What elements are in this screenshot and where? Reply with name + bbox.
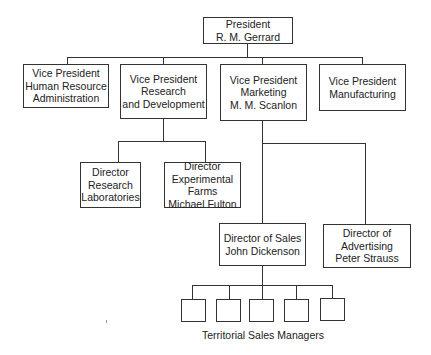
vp-manufacturing-line: Manufacturing — [329, 88, 396, 101]
vp-marketing-line: Vice President — [230, 74, 298, 87]
dir-research-line: Director — [92, 166, 129, 179]
vp-hr-line: Administration — [33, 92, 100, 105]
dir-experimental-farms-box: Director Experimental Farms Michael Fult… — [164, 162, 241, 208]
connector — [205, 141, 206, 162]
connector — [262, 266, 263, 286]
vp-marketing-line: M. M. Scanlon — [230, 99, 297, 112]
vp-rnd-box: Vice President Research and Development — [120, 64, 207, 119]
connector — [163, 119, 164, 142]
territorial-caption: Territorial Sales Managers — [182, 329, 344, 341]
dir-advertising-line: Director of — [343, 227, 391, 240]
connector — [262, 285, 263, 300]
connector — [262, 143, 366, 144]
vp-marketing-box: Vice President Marketing M. M. Scanlon — [220, 64, 307, 121]
dir-advertising-box: Director of Advertising Peter Strauss — [323, 224, 411, 268]
connector — [229, 285, 230, 300]
dir-farms-line: Michael Fulton — [168, 198, 236, 211]
vp-manufacturing-line: Vice President — [329, 75, 397, 88]
vp-manufacturing-box: Vice President Manufacturing — [319, 64, 406, 111]
dir-research-line: Research — [88, 179, 133, 192]
territorial-manager-box — [284, 299, 309, 322]
connector — [67, 57, 363, 58]
vp-hr-box: Vice President Human Resource Administra… — [23, 64, 109, 108]
territorial-manager-box — [320, 298, 345, 321]
vp-rnd-line: Vice President — [130, 73, 198, 86]
vp-hr-line: Human Resource — [25, 80, 107, 93]
dir-research-line: Laboratories — [81, 191, 139, 204]
dir-farms-line: Experimental — [172, 173, 233, 186]
dir-sales-line: Director of Sales — [224, 232, 302, 245]
connector — [365, 143, 366, 224]
dir-farms-line: Farms — [188, 185, 218, 198]
connector — [296, 285, 297, 300]
dir-advertising-line: Advertising — [341, 240, 393, 253]
president-title: President — [226, 18, 270, 31]
vp-rnd-line: and Development — [122, 98, 204, 111]
connector — [262, 121, 263, 223]
dir-advertising-line: Peter Strauss — [335, 252, 399, 265]
territorial-manager-box — [249, 299, 274, 322]
connector — [192, 285, 193, 300]
vp-marketing-line: Marketing — [240, 86, 286, 99]
vp-rnd-line: Research — [141, 85, 186, 98]
connector — [118, 141, 206, 142]
connector — [247, 44, 248, 58]
vp-hr-line: Vice President — [32, 67, 100, 80]
dir-farms-line: Director — [184, 160, 221, 173]
territorial-manager-box — [216, 299, 241, 322]
dir-sales-line: John Dickenson — [225, 245, 300, 258]
connector — [118, 141, 119, 162]
territorial-manager-box — [181, 299, 206, 322]
dir-research-labs-box: Director Research Laboratories — [80, 162, 141, 208]
dir-sales-box: Director of Sales John Dickenson — [219, 223, 306, 266]
president-box: President R. M. Gerrard — [203, 17, 293, 44]
president-name: R. M. Gerrard — [216, 31, 280, 44]
scan-speck — [106, 320, 107, 323]
